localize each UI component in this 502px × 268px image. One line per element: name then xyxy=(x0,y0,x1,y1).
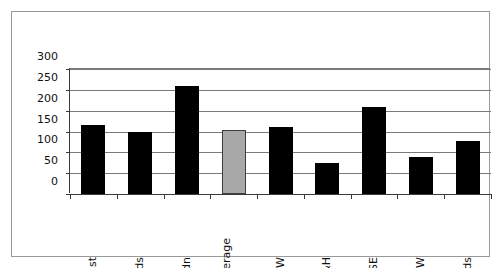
y-tick-label-0: 0 xyxy=(16,176,58,187)
x-tick-mark xyxy=(70,194,71,199)
bar-wmids[interactable] xyxy=(456,141,480,194)
plot-area: EastEmidsLdnNationalAverageNWNY&HSESWWmi… xyxy=(69,68,490,193)
y-tick-label-150: 150 xyxy=(16,114,58,125)
x-tick-mark xyxy=(257,194,258,199)
x-tick-mark xyxy=(351,194,352,199)
bar-column[interactable] xyxy=(128,69,152,194)
bar-column[interactable] xyxy=(269,69,293,194)
bar-column[interactable] xyxy=(362,69,386,194)
x-axis-label-ny-h: NY&H xyxy=(321,257,333,268)
y-tick-label-100: 100 xyxy=(16,134,58,145)
x-tick-mark xyxy=(397,194,398,199)
y-tick-label-200: 200 xyxy=(16,93,58,104)
x-axis-label-national-average: NationalAverage xyxy=(221,257,233,268)
x-tick-mark xyxy=(304,194,305,199)
x-axis-label-line: Emids xyxy=(133,257,146,268)
x-axis-label-line: SW xyxy=(414,257,427,268)
x-axis-label-wmids: Wmids xyxy=(462,257,474,268)
x-tick-mark xyxy=(210,194,211,199)
bar-ny-h[interactable] xyxy=(315,163,339,194)
y-tick-label-50: 50 xyxy=(16,155,58,166)
chart-figure: EastEmidsLdnNationalAverageNWNY&HSESWWmi… xyxy=(0,0,502,268)
gridline-0 xyxy=(70,194,491,195)
x-axis-label-line: NW xyxy=(274,257,287,268)
y-tick-label-300: 300 xyxy=(16,51,58,62)
x-axis-label-ldn: Ldn xyxy=(181,257,193,268)
x-axis-label-se: SE xyxy=(368,257,380,268)
x-axis-label-line: East xyxy=(86,257,99,268)
x-tick-mark xyxy=(491,194,492,199)
x-tick-mark xyxy=(164,194,165,199)
x-axis-label-line: Ldn xyxy=(180,257,193,268)
x-tick-mark xyxy=(444,194,445,199)
bar-column[interactable] xyxy=(315,69,339,194)
bar-column[interactable] xyxy=(456,69,480,194)
x-axis-label-emids: Emids xyxy=(134,257,146,268)
bar-east[interactable] xyxy=(81,125,105,194)
x-axis-label-line: NY&H xyxy=(320,257,333,268)
bar-national-average[interactable] xyxy=(222,130,246,194)
bar-column[interactable] xyxy=(175,69,199,194)
x-axis-label-nw: NW xyxy=(275,257,287,268)
y-tick-label-250: 250 xyxy=(16,72,58,83)
x-axis-label-line: SE xyxy=(367,257,380,268)
bar-ldn[interactable] xyxy=(175,86,199,194)
x-axis-label-sw: SW xyxy=(415,257,427,268)
bar-nw[interactable] xyxy=(269,127,293,194)
x-tick-mark xyxy=(117,194,118,199)
x-axis-label-line: Wmids xyxy=(461,257,474,268)
bar-column[interactable] xyxy=(222,69,246,194)
bar-se[interactable] xyxy=(362,107,386,194)
chart-frame: EastEmidsLdnNationalAverageNWNY&HSESWWmi… xyxy=(11,11,490,257)
x-axis-label-line: Average xyxy=(220,238,233,268)
bar-emids[interactable] xyxy=(128,132,152,194)
x-axis-label-east: East xyxy=(87,257,99,268)
bar-series xyxy=(70,69,491,194)
bar-sw[interactable] xyxy=(409,157,433,194)
bar-column[interactable] xyxy=(409,69,433,194)
bar-column[interactable] xyxy=(81,69,105,194)
